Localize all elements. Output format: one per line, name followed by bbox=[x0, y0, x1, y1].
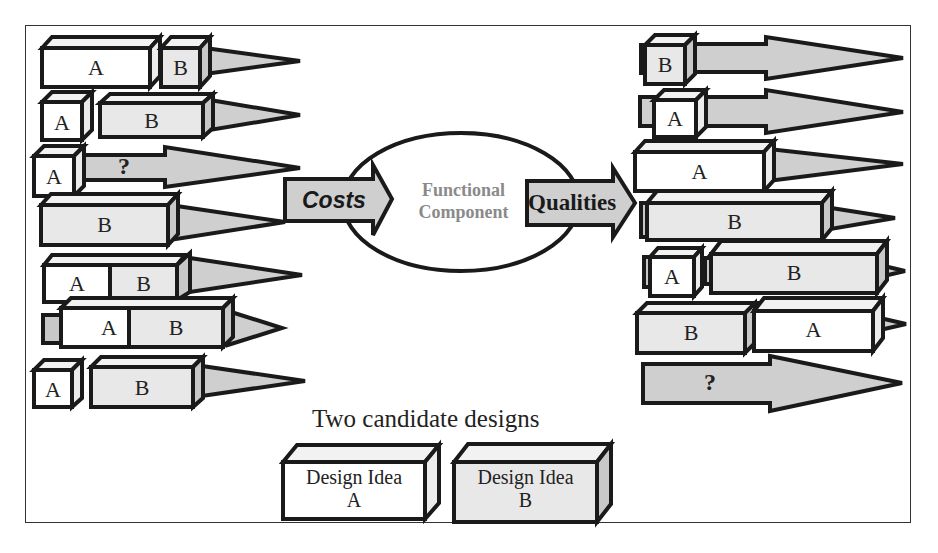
quality-arrow bbox=[825, 207, 895, 230]
design-a-block bbox=[42, 48, 150, 87]
left-row-4 bbox=[41, 194, 285, 245]
legend-design-a-label: Design Idea A bbox=[283, 466, 425, 512]
design-a-block bbox=[754, 311, 873, 351]
quality-arrow-unknown bbox=[643, 356, 902, 411]
quality-arrow bbox=[690, 37, 903, 79]
design-a-block bbox=[42, 102, 82, 140]
left-row-7 bbox=[34, 357, 305, 407]
legend-design-b-label: Design Idea B bbox=[454, 466, 597, 512]
design-b-block bbox=[41, 205, 168, 245]
design-a-block bbox=[635, 152, 764, 191]
design-b-block bbox=[637, 313, 745, 353]
design-b-block bbox=[647, 203, 822, 240]
diagram-canvas: .o { stroke:#1a1a1a; stroke-width:4; str… bbox=[0, 0, 938, 553]
left-row-2 bbox=[42, 92, 300, 140]
design-a-block bbox=[650, 257, 694, 296]
functional-component-line1: Functional bbox=[406, 180, 521, 202]
qualities-label: Qualities bbox=[528, 190, 616, 216]
right-row-1 bbox=[641, 35, 903, 84]
design-b-block bbox=[645, 45, 685, 84]
cost-arrow bbox=[202, 366, 305, 396]
costs-label: Costs bbox=[302, 187, 366, 214]
legend-design-b-line2: B bbox=[454, 489, 597, 512]
right-row-3 bbox=[635, 141, 903, 191]
design-a-block bbox=[654, 100, 696, 137]
left-row-1 bbox=[42, 37, 300, 87]
legend-title: Two candidate designs bbox=[312, 405, 539, 433]
legend-design-a-line1: Design Idea bbox=[283, 466, 425, 489]
cost-arrow bbox=[190, 258, 302, 292]
design-b-block bbox=[129, 308, 223, 347]
design-b-block bbox=[100, 103, 203, 137]
design-a-block bbox=[34, 156, 74, 196]
functional-component-label: Functional Component bbox=[406, 180, 521, 223]
left-row-3 bbox=[34, 146, 300, 196]
right-row-2 bbox=[640, 90, 903, 137]
cost-arrow bbox=[205, 48, 300, 74]
quality-arrow bbox=[760, 148, 903, 182]
right-row-4 bbox=[641, 191, 895, 240]
design-b-block bbox=[91, 367, 193, 407]
left-row-6 bbox=[43, 298, 282, 347]
legend-design-a-line2: A bbox=[283, 489, 425, 512]
legend-design-b-line1: Design Idea bbox=[454, 466, 597, 489]
cost-arrow bbox=[228, 311, 282, 345]
functional-component-line2: Component bbox=[406, 202, 521, 224]
cost-arrow bbox=[210, 100, 300, 130]
design-b-block bbox=[161, 48, 200, 87]
cost-arrow-unknown bbox=[82, 147, 300, 187]
design-b-block bbox=[711, 254, 877, 293]
design-a-block bbox=[61, 308, 129, 347]
design-a-block bbox=[34, 370, 72, 407]
left-row-5 bbox=[44, 253, 302, 302]
cost-arrow bbox=[170, 205, 285, 240]
right-row-7 bbox=[643, 356, 902, 411]
right-row-6 bbox=[637, 298, 906, 353]
right-row-5 bbox=[644, 241, 905, 296]
